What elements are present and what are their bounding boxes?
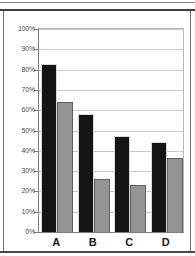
y-tick-label-0%: 0% bbox=[5, 228, 35, 235]
frame-rule-bottom bbox=[0, 251, 195, 253]
y-tick-label-20%: 20% bbox=[5, 187, 35, 194]
chart-figure: 0%10%20%30%40%50%60%70%80%90%100% ABCD bbox=[0, 0, 195, 256]
bar-C-series-2 bbox=[130, 185, 146, 232]
bar-D-series-2 bbox=[167, 158, 183, 232]
bar-C-series-1 bbox=[114, 136, 130, 232]
plot-area bbox=[38, 28, 184, 233]
y-tick-label-70%: 70% bbox=[5, 86, 35, 93]
bar-B-series-2 bbox=[94, 179, 110, 232]
bar-A-series-2 bbox=[57, 102, 73, 232]
bar-D-series-1 bbox=[151, 142, 167, 232]
y-tick-label-80%: 80% bbox=[5, 66, 35, 73]
y-tick-label-10%: 10% bbox=[5, 208, 35, 215]
y-tick-label-60%: 60% bbox=[5, 106, 35, 113]
bar-B-series-1 bbox=[78, 114, 94, 232]
y-tick-label-90%: 90% bbox=[5, 45, 35, 52]
bar-A-series-1 bbox=[41, 64, 57, 232]
frame-rule-right bbox=[190, 11, 191, 251]
y-tick-label-50%: 50% bbox=[5, 127, 35, 134]
frame-rule-left bbox=[3, 11, 4, 251]
y-tick-label-30%: 30% bbox=[5, 167, 35, 174]
x-tick-label-B: B bbox=[73, 236, 113, 248]
frame-rule-top-inner bbox=[0, 9, 195, 11]
y-tick-label-40%: 40% bbox=[5, 147, 35, 154]
gridline-80% bbox=[39, 70, 183, 71]
frame-rule-top-outer bbox=[0, 2, 195, 3]
x-tick-label-D: D bbox=[146, 236, 186, 248]
x-tick-label-A: A bbox=[36, 236, 76, 248]
gridline-70% bbox=[39, 90, 183, 91]
x-tick-label-C: C bbox=[109, 236, 149, 248]
gridline-90% bbox=[39, 49, 183, 50]
y-tick-label-100%: 100% bbox=[5, 25, 35, 32]
gridline-100% bbox=[39, 29, 183, 30]
